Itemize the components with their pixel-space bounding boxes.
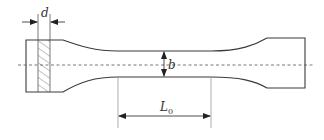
label-l0: L0 [159,100,173,116]
label-b: b [168,58,176,72]
hatched-section [38,40,50,92]
specimen-diagram: d b L0 [0,0,324,140]
label-d: d [41,6,49,20]
label-l0-subscript: 0 [168,107,173,116]
